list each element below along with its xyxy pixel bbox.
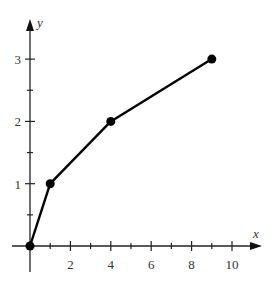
y-tick-label: 2	[15, 114, 22, 129]
ticks	[25, 59, 232, 251]
data-point-marker	[46, 179, 55, 188]
y-tick-label: 1	[15, 177, 22, 192]
x-tick-label: 4	[108, 257, 115, 272]
line-chart: 246810123 x y	[0, 0, 273, 290]
x-tick-label: 10	[226, 257, 239, 272]
x-tick-label: 2	[67, 257, 74, 272]
data-point-marker	[207, 55, 216, 64]
y-axis-arrow-icon	[26, 19, 34, 31]
data-point-marker	[26, 242, 35, 251]
x-axis-label: x	[252, 226, 259, 241]
axes	[12, 19, 262, 272]
y-tick-label: 3	[15, 52, 22, 67]
x-axis-arrow-icon	[250, 242, 262, 250]
y-axis-label: y	[35, 15, 43, 30]
tick-labels: 246810123	[15, 52, 239, 272]
x-tick-label: 6	[148, 257, 155, 272]
series-line	[30, 59, 212, 246]
x-tick-label: 8	[188, 257, 195, 272]
data-series	[26, 55, 217, 251]
data-point-marker	[106, 117, 115, 126]
